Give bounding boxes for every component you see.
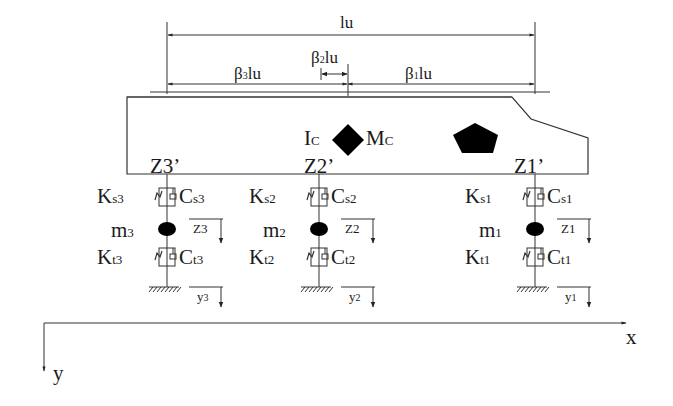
ct-label-axle-2: Ct2 xyxy=(331,247,355,268)
mass-label: MC xyxy=(366,128,393,149)
z-displacement-label-axle-2: Z2 xyxy=(345,222,359,235)
ks-label-axle-3: Ks3 xyxy=(97,186,124,207)
ks-label-axle-1: Ks1 xyxy=(465,186,492,207)
dim-beta3-label: β3lu xyxy=(234,65,261,82)
kt-label-axle-3: Kt3 xyxy=(97,247,122,268)
inertia-label: IC xyxy=(304,128,320,149)
vehicle-dynamics-diagram: lu β3lu β2lu β1lu IC MC Z3’ Z2’ Z1’ Ks3C… xyxy=(0,0,673,406)
cs-label-axle-3: Cs3 xyxy=(179,186,205,207)
road-input-label-axle-3: y3 xyxy=(197,290,209,303)
m-label-axle-3: m3 xyxy=(111,220,134,241)
z2-prime-label: Z2’ xyxy=(304,156,334,177)
dim-beta1-label: β1lu xyxy=(405,65,432,82)
kt-label-axle-2: Kt2 xyxy=(249,247,274,268)
z-displacement-label-axle-3: Z3 xyxy=(193,222,207,235)
kt-label-axle-1: Kt1 xyxy=(465,247,490,268)
dim-beta2-label: β2lu xyxy=(311,49,338,66)
y-axis-label: y xyxy=(53,363,64,384)
ks-label-axle-2: Ks2 xyxy=(249,186,276,207)
x-axis-label: x xyxy=(626,327,637,348)
m-label-axle-2: m2 xyxy=(263,220,286,241)
z-displacement-label-axle-1: Z1 xyxy=(561,222,575,235)
road-input-label-axle-1: y1 xyxy=(565,290,577,303)
road-input-label-axle-2: y2 xyxy=(349,290,361,303)
z3-prime-label: Z3’ xyxy=(150,156,180,177)
cs-label-axle-2: Cs2 xyxy=(331,186,357,207)
ct-label-axle-3: Ct3 xyxy=(179,247,203,268)
z1-prime-label: Z1’ xyxy=(514,156,544,177)
cg-diamond-marker xyxy=(332,124,364,156)
ct-label-axle-1: Ct1 xyxy=(547,247,571,268)
dim-total-label: lu xyxy=(340,14,353,31)
pentagon-marker xyxy=(453,123,498,153)
global-axes xyxy=(44,323,626,371)
dimension-lines xyxy=(127,22,550,97)
cs-label-axle-1: Cs1 xyxy=(547,186,573,207)
m-label-axle-1: m1 xyxy=(479,220,502,241)
